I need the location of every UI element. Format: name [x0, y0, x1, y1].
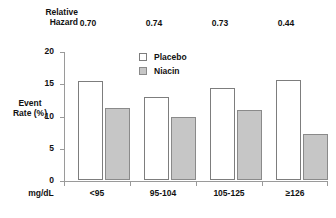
y-tick-10: 10 — [60, 117, 64, 118]
x-axis-unit-label: mg/dL — [18, 188, 64, 198]
y-tick-5: 5 — [60, 149, 64, 150]
bar-niacin-4 — [303, 134, 328, 180]
bar-placebo-2 — [144, 97, 169, 180]
bar-placebo-4 — [276, 80, 301, 180]
bar-placebo-1 — [78, 81, 103, 180]
y-axis-title-line1: Event — [2, 98, 58, 108]
x-tick-3 — [262, 181, 263, 186]
x-tick-0 — [64, 181, 65, 186]
y-tick-label-15: 15 — [45, 78, 54, 88]
legend-label-niacin: Niacin — [154, 66, 180, 76]
legend-label-placebo: Placebo — [154, 52, 187, 62]
x-axis-category-1: <95 — [67, 188, 127, 198]
y-tick-label-20: 20 — [45, 46, 54, 56]
y-axis-line — [64, 52, 65, 182]
bar-placebo-3 — [210, 88, 235, 180]
x-tick-1 — [130, 181, 131, 186]
x-axis-category-4: ≥126 — [265, 188, 325, 198]
x-axis-category-3: 105-125 — [199, 188, 259, 198]
bar-niacin-2 — [171, 117, 196, 180]
y-tick-label-10: 10 — [45, 111, 54, 121]
relative-hazard-value-3: 0.73 — [200, 18, 240, 28]
bar-niacin-1 — [105, 108, 130, 180]
event-rate-bar-chart: Relative Hazard 0.70 0.74 0.73 0.44 Even… — [0, 0, 336, 218]
x-tick-4 — [327, 181, 328, 186]
legend-swatch-placebo-icon — [139, 53, 147, 61]
plot-area: 20 15 10 5 0 — [64, 52, 328, 181]
y-tick-label-5: 5 — [49, 143, 54, 153]
legend-item-placebo: Placebo — [139, 50, 187, 64]
y-tick-label-0: 0 — [49, 175, 54, 185]
y-tick-15: 15 — [60, 84, 64, 85]
legend-swatch-niacin-icon — [139, 67, 147, 75]
bar-niacin-3 — [237, 110, 262, 180]
legend: Placebo Niacin — [139, 50, 187, 78]
x-tick-2 — [196, 181, 197, 186]
y-tick-20: 20 — [60, 52, 64, 53]
relative-hazard-value-4: 0.44 — [266, 18, 306, 28]
legend-item-niacin: Niacin — [139, 64, 187, 78]
relative-hazard-label-line1: Relative — [26, 7, 78, 17]
relative-hazard-value-1: 0.70 — [68, 18, 108, 28]
relative-hazard-value-2: 0.74 — [134, 18, 174, 28]
x-axis-category-2: 95-104 — [133, 188, 193, 198]
